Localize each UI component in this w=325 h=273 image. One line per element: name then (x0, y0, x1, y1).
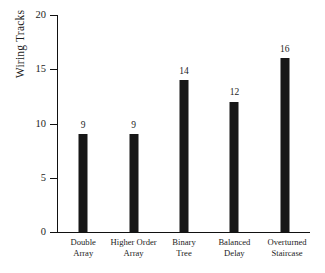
bar-rect[interactable] (79, 134, 88, 232)
category-label-line: Binary (159, 237, 209, 248)
bar-slot: 12 (209, 15, 259, 232)
bar-value-label: 9 (131, 121, 136, 131)
y-tick-label-20: 20 (16, 10, 46, 21)
y-tick-label-5: 5 (16, 173, 46, 184)
bar-chart: Wiring Tracks 20 15 10 5 0 9 9 14 12 (0, 0, 325, 273)
category-label-line: Array (108, 248, 158, 259)
bar-slot: 9 (108, 15, 158, 232)
category-label-binary-tree: Binary Tree (159, 237, 209, 260)
y-tick-label-10: 10 (16, 119, 46, 130)
category-label-balanced-delay: Balanced Delay (209, 237, 259, 260)
bar-value-label: 9 (81, 121, 86, 131)
category-label-line: Array (58, 248, 108, 259)
y-tick-mark-0 (50, 232, 58, 233)
bar-rect[interactable] (280, 58, 289, 232)
bar-value-label: 14 (179, 67, 189, 77)
category-label-line: Tree (159, 248, 209, 259)
y-tick-label-15: 15 (16, 64, 46, 75)
y-tick-mark-20 (50, 15, 58, 16)
category-label-line: Balanced (209, 237, 259, 248)
y-tick-mark-15 (50, 69, 58, 70)
bar-rect[interactable] (179, 80, 188, 232)
bar-value-label: 16 (280, 45, 290, 55)
y-tick-mark-5 (50, 178, 58, 179)
category-label-double-array: Double Array (58, 237, 108, 260)
category-label-line: Overturned (260, 237, 315, 248)
bar-slot: 9 (58, 15, 108, 232)
bar-rect[interactable] (230, 102, 239, 232)
bar-slot: 16 (260, 15, 310, 232)
category-label-overturned-staircase: Overturned Staircase (260, 237, 315, 260)
category-label-line: Double (58, 237, 108, 248)
plot-area: 9 9 14 12 16 (58, 15, 310, 232)
y-tick-mark-10 (50, 124, 58, 125)
bar-rect[interactable] (129, 134, 138, 232)
category-label-higher-order-array: Higher Order Array (108, 237, 158, 260)
category-label-line: Delay (209, 248, 259, 259)
category-label-line: Higher Order (108, 237, 158, 248)
category-label-line: Staircase (260, 248, 315, 259)
bar-slot: 14 (159, 15, 209, 232)
y-tick-label-0: 0 (16, 227, 46, 238)
bar-value-label: 12 (230, 88, 240, 98)
